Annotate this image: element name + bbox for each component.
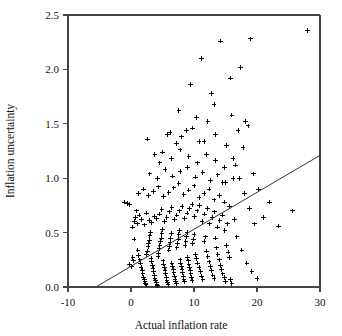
- y-tick-label: 2.5: [45, 9, 59, 21]
- x-tick-label: 10: [189, 296, 201, 308]
- y-axis-title: Inflation uncertainty: [4, 104, 17, 198]
- y-tick-label: 1.0: [45, 172, 59, 184]
- y-tick-label: 1.5: [45, 118, 59, 130]
- x-tick-label: 30: [315, 296, 327, 308]
- chart-canvas: -100102030 0.00.51.01.52.02.5 Actual inf…: [0, 0, 342, 336]
- x-tick-label: 20: [252, 296, 264, 308]
- y-tick-label: 0.5: [45, 227, 59, 239]
- x-axis-title: Actual inflation rate: [135, 319, 228, 331]
- scatter-plot-figure: -100102030 0.00.51.01.52.02.5 Actual inf…: [0, 0, 342, 336]
- y-tick-label: 0.0: [45, 281, 59, 293]
- y-tick-label: 2.0: [45, 63, 59, 75]
- x-tick-label: -10: [61, 296, 76, 308]
- x-tick-label: 0: [128, 296, 134, 308]
